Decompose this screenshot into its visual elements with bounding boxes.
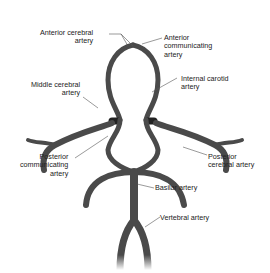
label-middle-cerebral-artery: Middle cerebral artery [31, 81, 80, 98]
label-vertebral-artery: Vertebral artery [160, 214, 209, 222]
label-posterior-cerebral-artery: Posterior cerebral artery [208, 153, 254, 170]
label-posterior-communicating-artery: Posterior communicating artery [20, 153, 68, 178]
label-internal-carotid-artery: Internal carotid artery [181, 75, 229, 92]
label-anterior-cerebral-artery: Anterior cerebral artery [40, 29, 93, 46]
circle-of-willis-diagram: Anterior cerebral artery Anterior commun… [0, 0, 270, 273]
label-anterior-communicating-artery: Anterior communicating artery [164, 34, 212, 59]
label-basilar-artery: Basilar artery [155, 184, 197, 192]
